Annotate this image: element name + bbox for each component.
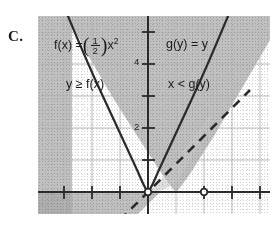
open-point-origin (145, 189, 152, 196)
right-paren: ) (101, 34, 108, 56)
figure-root: C. (0, 0, 280, 230)
equation-f-exponent: 2 (114, 36, 119, 46)
fraction-denominator: 2 (91, 45, 100, 56)
fraction-numerator: 1 (91, 36, 100, 46)
annotation-inequality-g: x < g(y) (168, 78, 210, 91)
left-paren: ( (83, 34, 90, 56)
graph-plot-area: 4 2 f(x) =(12)x2 g(y) = y y ≥ f(x) x < g… (38, 16, 270, 214)
annotation-equation-g: g(y) = y (166, 38, 208, 51)
y-tick-label-4: 4 (134, 56, 139, 67)
annotation-equation-f: f(x) =(12)x2 (54, 36, 118, 56)
problem-letter: C. (8, 28, 24, 45)
equation-f-lhs: f(x) = (54, 38, 83, 52)
annotation-inequality-f: y ≥ f(x) (66, 78, 104, 91)
y-tick-label-2: 2 (134, 121, 139, 132)
open-point-two (201, 189, 208, 196)
fraction-one-half: 12 (91, 36, 100, 56)
